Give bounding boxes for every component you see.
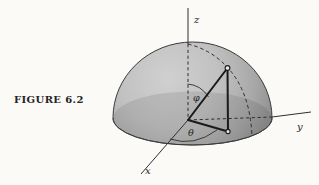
surface-point-marker	[225, 66, 230, 71]
phi-angle-label: φ	[193, 92, 200, 103]
y-axis-label: y	[296, 121, 303, 132]
x-axis-label: x	[145, 165, 151, 176]
projection-point-marker	[226, 129, 230, 133]
z-axis-label: z	[193, 14, 200, 25]
theta-angle-label: θ	[188, 127, 194, 138]
spherical-coordinates-diagram: z y x φ θ	[0, 0, 319, 185]
textbook-figure: FIGURE 6.2	[0, 0, 319, 185]
y-axis	[272, 112, 311, 117]
